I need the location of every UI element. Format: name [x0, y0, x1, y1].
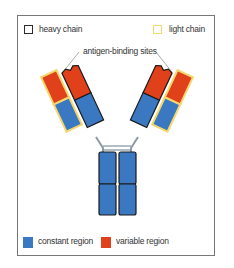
variable-region-label: variable region [116, 236, 169, 246]
constant-region-label: constant region [38, 236, 93, 246]
antibody-diagram [0, 0, 234, 268]
variable-region-swatch [101, 237, 111, 248]
fc-stem [99, 152, 136, 215]
constant-region-swatch [23, 237, 33, 248]
hinge-region [96, 137, 138, 152]
